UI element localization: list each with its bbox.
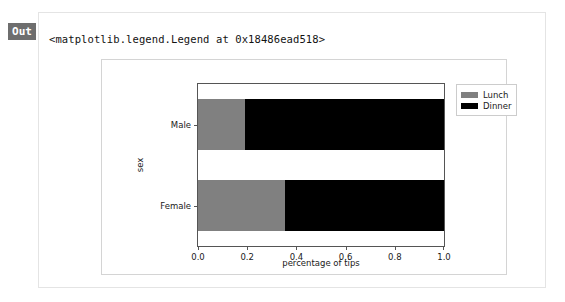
y-tick-male <box>194 125 198 126</box>
bar-group-female <box>198 180 444 230</box>
x-tick-0 <box>198 246 199 250</box>
output-prompt-label: Out <box>8 23 36 40</box>
x-tick-1 <box>247 246 248 250</box>
bar-group-male <box>198 99 444 149</box>
bar-segment-male-dinner <box>245 99 444 149</box>
x-tick-5 <box>443 246 444 250</box>
bar-segment-female-dinner <box>285 180 444 230</box>
legend-item-dinner: Dinner <box>461 100 511 111</box>
plot-axes: MaleFemale0.00.20.40.60.81.0 <box>197 83 445 247</box>
legend-swatch-dinner <box>461 103 478 109</box>
bar-segment-female-lunch <box>198 180 285 230</box>
legend-item-lunch: Lunch <box>461 89 511 100</box>
legend-label-dinner: Dinner <box>483 101 511 111</box>
x-tick-2 <box>296 246 297 250</box>
y-axis-label: sex <box>135 158 145 173</box>
legend-label-lunch: Lunch <box>483 90 508 100</box>
legend-swatch-lunch <box>461 92 478 98</box>
chart-legend: LunchDinner <box>456 84 517 116</box>
y-tick-label-female: Female <box>160 201 191 211</box>
x-tick-4 <box>395 246 396 250</box>
output-area: <matplotlib.legend.Legend at 0x18486ead5… <box>38 12 546 288</box>
y-tick-label-male: Male <box>171 120 191 130</box>
matplotlib-figure: MaleFemale0.00.20.40.60.81.0 percentage … <box>101 59 507 275</box>
bar-segment-male-lunch <box>198 99 245 149</box>
y-tick-female <box>194 206 198 207</box>
x-axis-label: percentage of tips <box>197 258 445 268</box>
notebook-output-cell: Out <matplotlib.legend.Legend at 0x18486… <box>0 0 565 302</box>
x-tick-3 <box>346 246 347 250</box>
object-repr-text: <matplotlib.legend.Legend at 0x18486ead5… <box>49 33 325 45</box>
